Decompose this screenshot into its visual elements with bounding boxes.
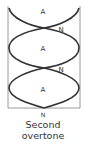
node-label-2: N bbox=[58, 66, 63, 74]
caption-line-1: Second bbox=[26, 119, 61, 130]
caption-line-2: overtone bbox=[22, 130, 65, 141]
node-label-bottom: N bbox=[41, 111, 46, 118]
standing-wave-diagram: A N A N A N Second overtone bbox=[0, 0, 85, 142]
antinode-label-top: A bbox=[41, 8, 46, 16]
antinode-label-bottom: A bbox=[41, 86, 46, 94]
node-label-1: N bbox=[58, 26, 63, 34]
antinode-label-middle: A bbox=[41, 45, 46, 53]
